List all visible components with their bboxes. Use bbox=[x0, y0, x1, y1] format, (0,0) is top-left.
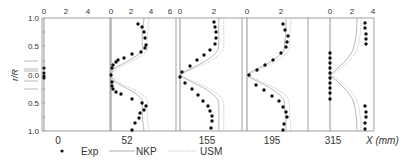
x-tick: 0 bbox=[178, 7, 183, 16]
exp-points bbox=[42, 20, 367, 131]
legend-exp-marker bbox=[60, 149, 63, 152]
y-axis-label: r/R bbox=[10, 69, 20, 81]
model-curves bbox=[111, 18, 361, 131]
y-axis: 1.0 0.5 0.0 0.5 1.0 r/R bbox=[10, 14, 40, 136]
x-tick: 0 bbox=[42, 7, 47, 16]
legend-usm-label: USM bbox=[200, 146, 222, 157]
x-tick: 2 bbox=[212, 7, 217, 16]
panel-labels: 0 52 155 195 315 X (mm) bbox=[55, 135, 399, 146]
nkp-curve-155 bbox=[180, 18, 219, 131]
x-tick: 2 bbox=[279, 7, 284, 16]
panel-label-315: 315 bbox=[325, 135, 342, 146]
panel-label-195: 195 bbox=[264, 135, 281, 146]
x-tick: 0 bbox=[328, 7, 333, 16]
legend-exp-label: Exp bbox=[81, 146, 99, 157]
x-tick: 2 bbox=[64, 7, 69, 16]
nkp-curve-195 bbox=[247, 18, 286, 131]
usm-curve-52 bbox=[111, 18, 149, 131]
x-tick: 2 bbox=[129, 7, 134, 16]
legend: Exp NKP USM bbox=[60, 146, 222, 157]
panel-label-52: 52 bbox=[121, 135, 133, 146]
x-tick: 0 bbox=[109, 7, 114, 16]
velocity-profile-chart: 1.0 0.5 0.0 0.5 1.0 r/R 0 2 4 0 2 4 6 0 … bbox=[0, 0, 409, 161]
y-tick: 0.5 bbox=[28, 99, 40, 108]
x-axis-label: X (mm) bbox=[365, 135, 399, 146]
y-tick: 0.0 bbox=[28, 71, 40, 80]
x-tick: 0 bbox=[245, 7, 250, 16]
y-tick: 1.0 bbox=[28, 14, 40, 23]
top-x-axis: 0 2 4 0 2 4 6 0 2 0 2 0 2 4 bbox=[42, 7, 376, 16]
x-tick: 4 bbox=[149, 7, 154, 16]
nkp-curve-315 bbox=[330, 18, 357, 131]
x-tick: 4 bbox=[371, 7, 376, 16]
usm-curve-155 bbox=[180, 18, 224, 131]
panel-label-0: 0 bbox=[55, 135, 61, 146]
y-tick: 1.0 bbox=[28, 127, 40, 136]
x-tick: 4 bbox=[86, 7, 91, 16]
x-tick: 6 bbox=[168, 7, 173, 16]
panel-label-155: 155 bbox=[199, 135, 216, 146]
plot-frame bbox=[42, 18, 374, 131]
y-tick: 0.5 bbox=[28, 42, 40, 51]
x-tick: 2 bbox=[350, 7, 355, 16]
usm-curve-195 bbox=[247, 18, 291, 131]
legend-nkp-label: NKP bbox=[136, 146, 157, 157]
